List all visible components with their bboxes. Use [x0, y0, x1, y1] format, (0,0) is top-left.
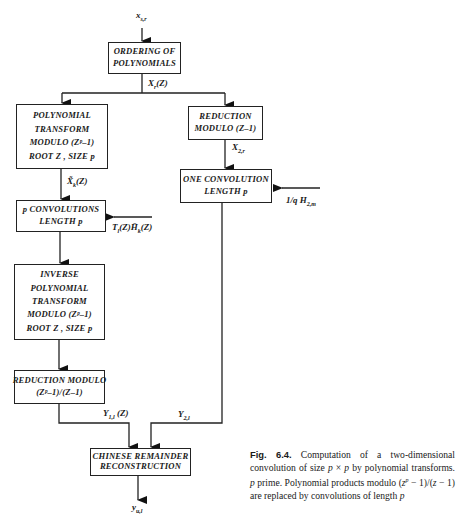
reduction-modulo-z-1-box: REDUCTION MODULO (Z–1): [188, 106, 263, 140]
signal-x2r-label: X2,r: [232, 142, 245, 154]
inverse-polynomial-transform-box: INVERSE POLYNOMIAL TRANSFORM MODULO (Zᵖ–…: [14, 264, 105, 340]
signal-y1l-label: Y1,l (Z): [103, 408, 128, 420]
reduction-modulo-box: REDUCTION MODULO (Zᵖ–1)/(Z–1): [14, 370, 105, 404]
signal-xk-label: X̃k(Z): [67, 176, 88, 188]
input-label-xsr: xs,r: [136, 10, 147, 22]
figure-caption: Fig. 6.4. Computation of a two-dimension…: [250, 448, 455, 502]
figure-number: Fig. 6.4.: [250, 449, 292, 460]
split-line: [62, 73, 225, 93]
polynomial-transform-box: POLYNOMIAL TRANSFORM MODULO (Zᵖ–1) ROOT …: [16, 104, 108, 169]
signal-xr-label: Xr(Z): [148, 78, 168, 90]
ordering-of-polynomials-box: ORDERING OF POLYNOMIALS: [108, 42, 181, 74]
chinese-remainder-box: CHINESE REMAINDER RECONSTRUCTION: [90, 448, 191, 476]
output-label-yul: yu,l: [132, 502, 143, 514]
one-convolution-box: ONE CONVOLUTION LENGTH p: [180, 169, 272, 203]
signal-h2m-label: 1/q H2,m: [286, 195, 316, 207]
p-convolutions-box: p CONVOLUTIONS LENGTH p: [16, 200, 106, 232]
signal-y2l-label: Y2,l: [178, 409, 190, 421]
signal-t-h-label: Tl(Z)H̄k(Z): [112, 222, 152, 234]
